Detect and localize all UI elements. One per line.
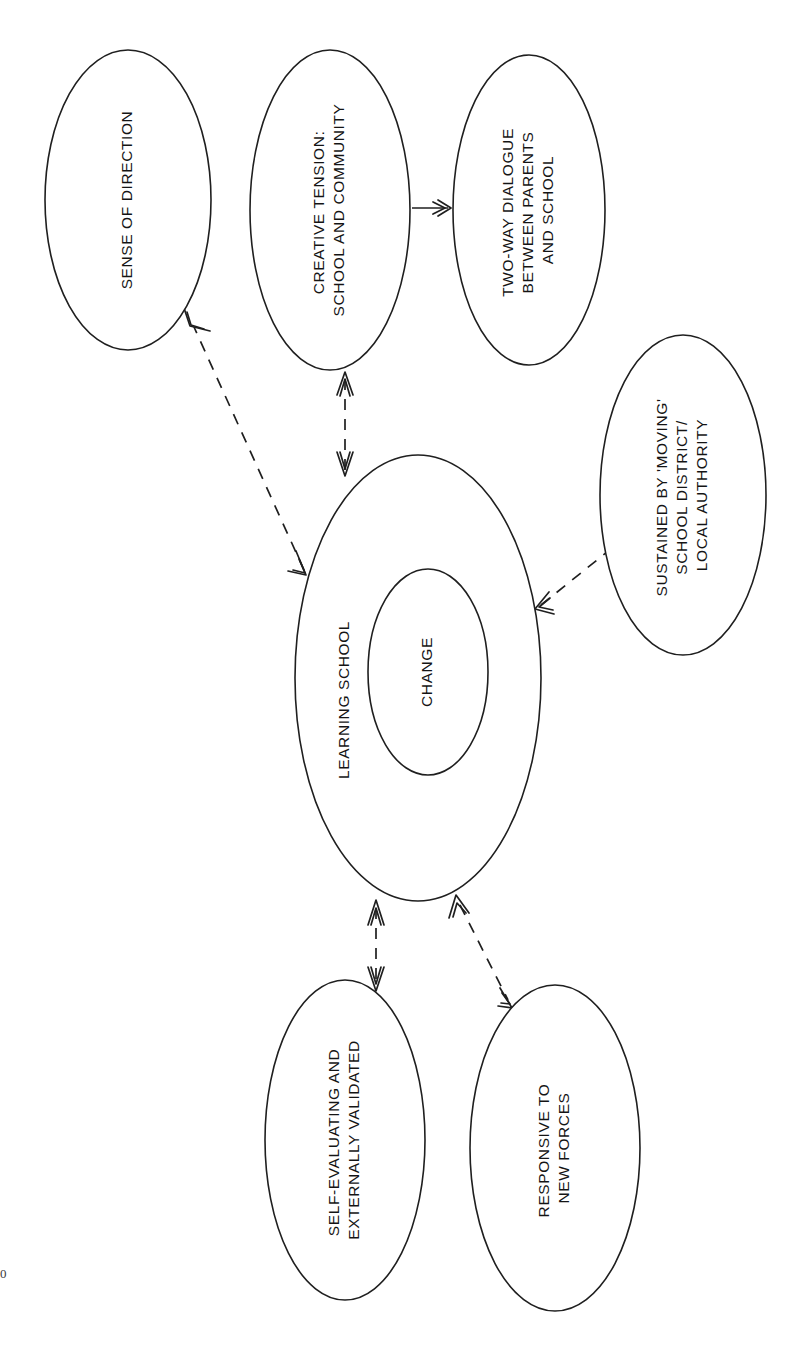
label-change: CHANGE	[418, 637, 435, 707]
connector-learning-school-to-responsive	[449, 895, 512, 1008]
learning-school-diagram: SENSE OF DIRECTION CREATIVE TENSION: SCH…	[0, 0, 799, 1352]
connector-learning-school-to-self-evaluating	[368, 900, 384, 991]
label-sense-of-direction: SENSE OF DIRECTION	[118, 111, 135, 290]
node-two-way-dialogue[interactable]: TWO-WAY DIALOGUE BETWEEN PARENTS AND SCH…	[453, 55, 605, 365]
label-learning-school: LEARNING SCHOOL	[335, 621, 352, 779]
node-change[interactable]: CHANGE	[368, 569, 488, 775]
connector-creative-tension-to-two-way-dialogue	[412, 200, 451, 216]
node-responsive-to-new-forces[interactable]: RESPONSIVE TO NEW FORCES	[470, 985, 640, 1311]
node-sustained-by-moving-school[interactable]: SUSTAINED BY 'MOVING' SCHOOL DISTRICT/ L…	[600, 335, 766, 655]
node-self-evaluating[interactable]: SELF-EVALUATING AND EXTERNALLY VALIDATED	[265, 980, 425, 1300]
connector-learning-school-to-creative-tension	[337, 372, 353, 476]
node-creative-tension[interactable]: CREATIVE TENSION: SCHOOL AND COMMUNITY	[250, 50, 410, 370]
node-sense-of-direction[interactable]: SENSE OF DIRECTION	[45, 50, 211, 350]
page-number-artifact: 0	[0, 1266, 9, 1282]
label-sustained-by-moving-school: SUSTAINED BY 'MOVING' SCHOOL DISTRICT/ L…	[653, 394, 710, 597]
